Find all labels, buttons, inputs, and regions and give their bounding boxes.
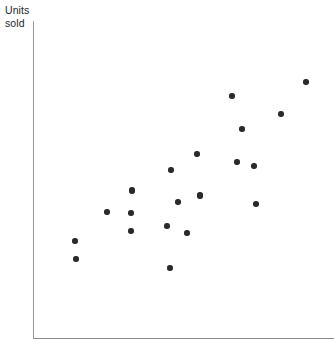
data-point xyxy=(253,201,258,206)
data-point xyxy=(128,228,133,233)
data-point xyxy=(167,265,172,270)
data-point xyxy=(194,151,199,156)
data-point xyxy=(251,163,256,168)
data-point xyxy=(234,159,239,164)
data-point xyxy=(303,79,308,84)
data-point xyxy=(128,210,133,215)
x-axis-line xyxy=(33,338,334,339)
data-point xyxy=(104,209,109,214)
data-point xyxy=(239,126,244,131)
data-point xyxy=(168,167,173,172)
data-point xyxy=(72,238,77,243)
data-point xyxy=(184,230,189,235)
scatter-chart: Units sold xyxy=(0,0,334,360)
y-axis-label: Units sold xyxy=(5,4,35,30)
data-point xyxy=(175,199,180,204)
data-point xyxy=(73,256,78,261)
data-point xyxy=(197,193,202,198)
data-point xyxy=(129,187,134,192)
data-point xyxy=(164,223,169,228)
plot-area xyxy=(33,21,334,338)
data-point xyxy=(278,111,283,116)
data-point xyxy=(229,93,234,98)
